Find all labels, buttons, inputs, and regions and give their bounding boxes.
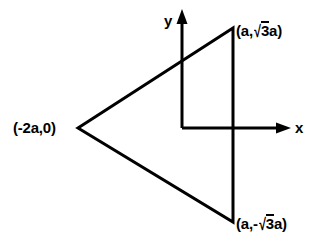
radicand-value: 3 [261,21,269,38]
x-axis-arrowhead-icon [276,123,291,134]
vertex-label-top-right: (a,√3a) [236,21,282,38]
x-axis-label: x [295,120,303,135]
y-axis-arrowhead-icon [177,9,188,24]
figure-canvas: y x (-2a,0) (a,√3a) (a,-√3a) [0,0,317,246]
radicand-value: 3 [266,214,274,231]
sqrt-icon: √3 [258,214,274,231]
vertex-label-top-right-suffix: a) [269,22,282,39]
vertex-label-left: (-2a,0) [13,120,56,135]
triangle-shape [78,28,233,222]
radical-sign: √ [254,22,261,39]
radical-sign: √ [259,215,266,232]
vertex-label-bottom-right: (a,-√3a) [236,214,287,231]
vertex-label-top-right-prefix: (a, [236,22,253,39]
sqrt-icon: √3 [253,21,269,38]
vertex-label-bottom-right-prefix: (a,- [236,215,258,232]
vertex-label-bottom-right-suffix: a) [274,215,287,232]
y-axis-label: y [164,13,172,28]
